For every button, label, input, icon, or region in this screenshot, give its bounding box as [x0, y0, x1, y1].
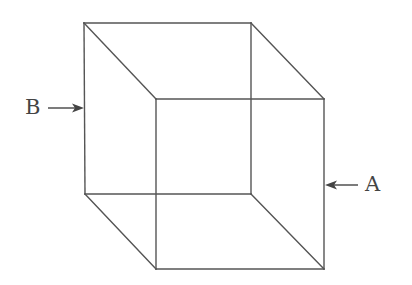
edge-back-left [84, 23, 85, 194]
edge-diag-top-left [84, 23, 156, 99]
cube-drawing [0, 0, 412, 285]
edge-diag-top-right [251, 23, 324, 99]
label-a: A [365, 174, 380, 195]
label-b: B [25, 97, 40, 118]
edge-diag-bottom-left [85, 194, 156, 269]
arrow-right-icon [48, 104, 84, 113]
necker-cube-figure: B A [0, 0, 412, 285]
edge-diag-bottom-right [251, 194, 324, 269]
arrow-left-icon [325, 181, 358, 190]
